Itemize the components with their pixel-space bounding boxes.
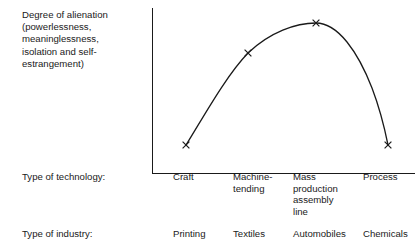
industry-label-textiles: Textiles (233, 228, 295, 240)
y-axis-title-line-5: estrangement) (22, 58, 142, 70)
row-label-technology: Type of technology: (22, 171, 105, 183)
row-label-industry: Type of industry: (22, 228, 92, 240)
technology-label-mass-production: Mass production assembly line (293, 171, 361, 217)
industry-label-printing: Printing (173, 228, 233, 240)
y-axis-title-line-4: isolation and self- (22, 46, 142, 58)
technology-label-machine-tending: Machine- tending (233, 171, 295, 194)
technology-label-process: Process (363, 171, 419, 183)
y-axis-title-line-3: meaninglessness, (22, 33, 142, 45)
plot-area (152, 8, 415, 174)
alienation-curve (152, 8, 415, 174)
industry-label-automobiles: Automobiles (293, 228, 361, 240)
technology-label-craft: Craft (173, 171, 233, 183)
data-point-marker-1 (245, 50, 252, 57)
industry-label-chemicals: Chemicals (363, 228, 419, 240)
alienation-technology-figure: Degree of alienation (powerlessness, mea… (0, 0, 419, 244)
y-axis-title: Degree of alienation (powerlessness, mea… (22, 9, 142, 70)
y-axis-title-line-1: Degree of alienation (22, 9, 142, 21)
data-point-marker-0 (183, 142, 190, 149)
y-axis-title-line-2: (powerlessness, (22, 21, 142, 33)
